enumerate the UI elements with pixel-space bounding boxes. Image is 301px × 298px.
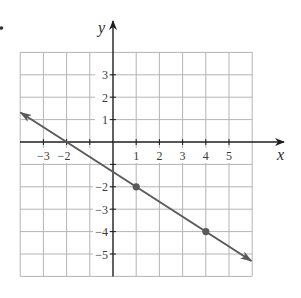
grid	[20, 52, 252, 276]
x-tick-label: 2	[156, 149, 162, 163]
x-tick-label: −2	[58, 149, 71, 163]
bullet-dot	[0, 26, 3, 30]
y-tick-label: −5	[95, 248, 108, 262]
point-4-neg4	[202, 228, 209, 235]
y-tick-label: 1	[102, 113, 108, 127]
x-tick-label: 5	[226, 149, 232, 163]
x-tick-label: −3	[37, 149, 50, 163]
y-tick-label: −4	[95, 225, 108, 239]
x-tick-label: 4	[203, 149, 209, 163]
y-tick-label: −3	[95, 203, 108, 217]
coordinate-graph: −3 −2 1 2 3 4 5 3 2 1 −2 −3 −4 −5 y x	[0, 0, 301, 298]
y-tick-label: 2	[102, 91, 108, 105]
x-tick-label: 1	[133, 149, 139, 163]
y-tick-label: −2	[95, 180, 108, 194]
y-axis-label: y	[96, 19, 106, 37]
x-axis-label: x	[276, 146, 284, 163]
y-tick-label: 3	[102, 68, 108, 82]
x-tick-label: 3	[180, 149, 186, 163]
x-tick-labels: −3 −2 1 2 3 4 5	[30, 148, 235, 163]
point-1-neg2	[133, 183, 140, 190]
